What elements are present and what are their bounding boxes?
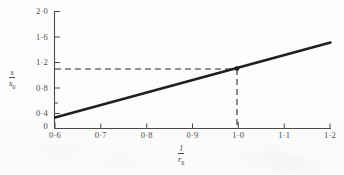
y-axis-title-denominator-subscript: 0 <box>12 83 15 89</box>
y-axis-title-numerator: s <box>9 68 15 78</box>
x-tick-label-0-6: 0·6 <box>41 130 69 140</box>
y-axis-title: s s0 <box>9 68 15 89</box>
x-axis-title: l r0 <box>178 144 184 165</box>
y-tick-label-1-2: 1·2 <box>18 57 48 67</box>
x-tick-label-0-9: 0·9 <box>179 130 207 140</box>
x-tick-label-0-8: 0·8 <box>133 130 161 140</box>
x-tick-label-1-1: 1·1 <box>270 130 298 140</box>
y-axis-title-denominator: s0 <box>9 78 15 89</box>
chart-plot-area <box>0 0 344 175</box>
reference-point-marker <box>235 66 240 71</box>
x-axis-title-denominator-subscript: 0 <box>181 159 184 165</box>
y-axis-title-fraction: s s0 <box>9 68 15 89</box>
x-tick-label-1-0: 1·0 <box>224 130 252 140</box>
x-axis-title-denominator: r0 <box>178 154 184 165</box>
y-tick-label-2-0: 2·0 <box>18 6 48 16</box>
y-tick-label-1-6: 1·6 <box>18 32 48 42</box>
x-tick-label-1-2: 1·2 <box>316 130 344 140</box>
data-line-main-curve <box>55 43 331 118</box>
x-axis-title-numerator: l <box>178 144 184 154</box>
x-tick-label-0-7: 0·7 <box>87 130 115 140</box>
x-axis-ticks <box>55 122 330 129</box>
y-tick-label-0-8: 0·8 <box>18 83 48 93</box>
figure-container: 2·0 1·6 1·2 0·8 0·4 0 0·6 0·7 0·8 0·9 1·… <box>0 0 344 175</box>
y-axis-ticks <box>55 12 61 114</box>
y-tick-label-0-4: 0·4 <box>18 108 48 118</box>
x-axis-title-fraction: l r0 <box>178 144 184 165</box>
